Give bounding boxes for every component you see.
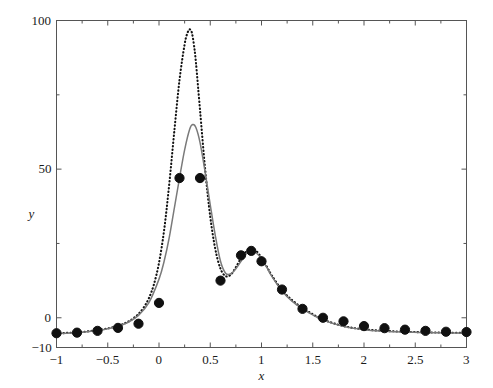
- data-point-marker: [52, 329, 61, 338]
- chart-plot-area: [0, 0, 493, 388]
- y-tick-label: 100: [32, 13, 52, 29]
- data-point-marker: [236, 251, 245, 260]
- x-axis-title: x: [259, 368, 265, 384]
- data-point-marker: [93, 326, 102, 335]
- data-point-marker: [359, 322, 368, 331]
- data-point-marker: [298, 304, 307, 313]
- y-axis-title: y: [29, 206, 35, 222]
- data-point-marker: [134, 319, 143, 328]
- x-tick-label: 2.5: [407, 352, 423, 368]
- data-point-marker: [257, 257, 266, 266]
- data-point-marker: [175, 173, 184, 182]
- data-point-marker: [462, 327, 471, 336]
- x-tick-label: 1: [258, 352, 265, 368]
- data-point-marker: [195, 173, 204, 182]
- data-point-marker: [72, 328, 81, 337]
- data-point-marker: [380, 324, 389, 333]
- x-tick-label: 1.5: [305, 352, 321, 368]
- data-point-marker: [216, 276, 225, 285]
- y-tick-label: 50: [39, 161, 52, 177]
- data-point-marker: [318, 313, 327, 322]
- data-point-marker: [247, 246, 256, 255]
- data-point-marker: [400, 325, 409, 334]
- data-point-marker: [154, 298, 163, 307]
- data-point-marker: [441, 327, 450, 336]
- x-tick-label: 3: [463, 352, 470, 368]
- x-tick-label: 0.5: [202, 352, 218, 368]
- y-tick-label: −10: [32, 340, 52, 356]
- x-tick-label: −0.5: [96, 352, 120, 368]
- data-point-marker: [277, 285, 286, 294]
- data-point-marker: [113, 323, 122, 332]
- data-point-marker: [339, 317, 348, 326]
- x-tick-label: 0: [156, 352, 163, 368]
- y-tick-label: 0: [45, 310, 52, 326]
- data-point-marker: [421, 326, 430, 335]
- chart-figure: y x −1−0.500.511.522.53 −10050100: [0, 0, 493, 388]
- x-tick-label: 2: [361, 352, 368, 368]
